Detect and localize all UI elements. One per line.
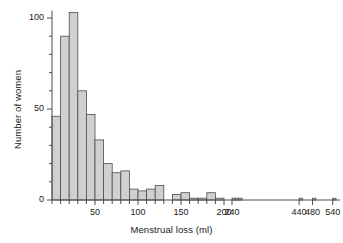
histogram-bar bbox=[95, 140, 104, 200]
histogram-figure: 050100 50100150200240440480540 Menstrual… bbox=[0, 0, 343, 243]
bars-group bbox=[52, 13, 336, 200]
histogram-bar bbox=[207, 193, 216, 200]
histogram-bar bbox=[52, 116, 61, 200]
x-axis-label: Menstrual loss (ml) bbox=[0, 224, 343, 235]
histogram-bar bbox=[61, 36, 70, 200]
histogram-bar bbox=[104, 164, 113, 200]
histogram-bar bbox=[78, 91, 87, 200]
y-tick-label: 0 bbox=[6, 194, 44, 204]
x-tick-label: 100 bbox=[124, 207, 152, 217]
histogram-bar bbox=[181, 193, 190, 200]
histogram-bar bbox=[121, 171, 130, 200]
histogram-bar bbox=[147, 189, 156, 200]
y-tick-label: 100 bbox=[6, 12, 44, 22]
histogram-bar bbox=[138, 191, 147, 200]
x-tick-label: 50 bbox=[81, 207, 109, 217]
x-tick-label: 150 bbox=[167, 207, 195, 217]
x-tick-label: 240 bbox=[218, 207, 246, 217]
x-tick-label: 540 bbox=[319, 207, 343, 217]
histogram-bar bbox=[155, 185, 164, 200]
y-axis-label: Number of women bbox=[12, 50, 23, 170]
histogram-bar bbox=[86, 114, 95, 200]
histogram-bar bbox=[112, 173, 121, 200]
histogram-bar bbox=[129, 189, 138, 200]
histogram-bar bbox=[69, 13, 78, 200]
histogram-bar bbox=[172, 195, 181, 200]
